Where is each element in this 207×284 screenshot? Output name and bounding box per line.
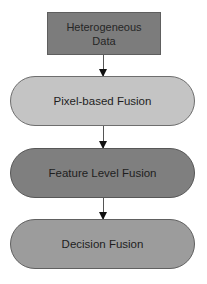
decision-fusion-node: Decision Fusion <box>10 219 195 269</box>
arrow-down-icon <box>103 55 104 76</box>
decision-fusion-label: Decision Fusion <box>62 238 144 250</box>
heterogeneous-data-label: Heterogeneous Data <box>66 20 141 48</box>
label-line-2: Data <box>66 34 141 48</box>
arrow-down-icon <box>103 198 104 219</box>
pixel-based-fusion-node: Pixel-based Fusion <box>10 76 195 126</box>
label-line-1: Heterogeneous <box>66 20 141 34</box>
feature-level-fusion-label: Feature Level Fusion <box>48 167 156 179</box>
feature-level-fusion-node: Feature Level Fusion <box>10 148 195 198</box>
arrow-down-icon <box>103 126 104 148</box>
heterogeneous-data-node: Heterogeneous Data <box>47 12 161 55</box>
pixel-based-fusion-label: Pixel-based Fusion <box>54 95 152 107</box>
